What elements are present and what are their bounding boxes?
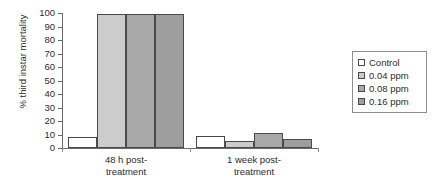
legend-item-label: Control [369, 57, 400, 68]
legend: Control 0.04 ppm 0.08 ppm 0.16 ppm [352, 51, 427, 113]
bar [283, 139, 312, 148]
y-axis-tick: 20 [0, 121, 62, 132]
bar [196, 136, 225, 148]
y-axis-tick: 30 [0, 108, 62, 119]
plot-area [62, 13, 318, 148]
y-axis-tick: 80 [0, 40, 62, 51]
x-axis-group-label-line: 1 week post- [194, 154, 314, 166]
y-axis-tick: 10 [0, 135, 62, 146]
x-axis-tick-mark [190, 148, 191, 152]
y-axis-tick: 100 [0, 13, 62, 24]
x-axis-group-label-line: treatment [66, 166, 186, 178]
y-axis-tick-label: 100 [39, 7, 55, 18]
x-axis-group-label: 48 h post-treatment [66, 154, 186, 178]
y-axis-ticks: 0102030405060708090100 [0, 0, 62, 187]
legend-item[interactable]: 0.16 ppm [358, 95, 421, 108]
y-axis-tick: 70 [0, 54, 62, 65]
legend-item-label: 0.08 ppm [369, 83, 409, 94]
y-axis-tick: 0 [0, 148, 62, 159]
bar [68, 137, 97, 148]
y-axis-tick: 60 [0, 67, 62, 78]
legend-item[interactable]: 0.04 ppm [358, 69, 421, 82]
x-axis-group-label-line: 48 h post- [66, 154, 186, 166]
bar [225, 141, 254, 148]
x-axis-group-label: 1 week post-treatment [194, 154, 314, 178]
legend-swatch-icon [358, 98, 365, 105]
y-axis-tick: 50 [0, 81, 62, 92]
bar [254, 133, 283, 148]
bar [126, 14, 155, 148]
y-axis-tick: 90 [0, 27, 62, 38]
bar [155, 14, 184, 148]
legend-swatch-icon [358, 72, 365, 79]
bar-chart: % third instar mortality 010203040506070… [0, 0, 433, 187]
legend-item-label: 0.04 ppm [369, 70, 409, 81]
legend-item[interactable]: Control [358, 56, 421, 69]
x-axis-group-label-line: treatment [194, 166, 314, 178]
legend-item[interactable]: 0.08 ppm [358, 82, 421, 95]
y-axis-tick: 40 [0, 94, 62, 105]
legend-swatch-icon [358, 59, 365, 66]
x-axis-tick-mark [62, 148, 63, 152]
legend-item-label: 0.16 ppm [369, 96, 409, 107]
x-axis-tick-mark [318, 148, 319, 152]
bar [97, 14, 126, 148]
legend-swatch-icon [358, 85, 365, 92]
